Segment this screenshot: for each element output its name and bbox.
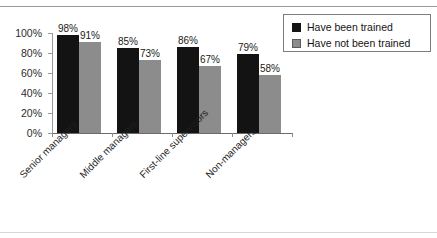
bar-not-trained[interactable]: 58% <box>259 75 281 133</box>
y-tick-label-2: 40% <box>21 88 42 99</box>
y-tick-3: 60% <box>48 73 52 74</box>
legend-label: Have been trained <box>307 22 393 33</box>
bar-value-label: 58% <box>255 64 285 74</box>
x-tick-3 <box>232 133 233 137</box>
x-tick-4 <box>292 133 293 137</box>
y-tick-5: 100% <box>48 33 52 34</box>
bar-not-trained[interactable]: 91% <box>79 42 101 133</box>
y-tick-label-5: 100% <box>15 28 42 39</box>
bar-value-label: 85% <box>113 37 143 47</box>
y-tick-label-3: 60% <box>21 68 42 79</box>
y-tick-label-0: 0% <box>27 128 42 139</box>
legend-item-trained[interactable]: Have been trained <box>292 20 430 34</box>
legend-swatch-icon <box>292 23 301 32</box>
bar-value-label: 79% <box>233 43 263 53</box>
y-tick-1: 20% <box>48 113 52 114</box>
y-tick-4: 80% <box>48 53 52 54</box>
bar-value-label: 67% <box>195 55 225 65</box>
y-tick-2: 40% <box>48 93 52 94</box>
chart-figure: 0% 20% 40% 60% 80% 100% 98% 91% <box>0 0 437 238</box>
bar-not-trained[interactable]: 73% <box>139 60 161 133</box>
x-category-label: Non-managers <box>204 126 258 180</box>
y-axis-line <box>52 33 53 133</box>
figure-top-rule <box>0 6 437 7</box>
y-tick-label-1: 20% <box>21 108 42 119</box>
plot-area: 0% 20% 40% 60% 80% 100% 98% 91% <box>52 33 292 133</box>
bar-trained[interactable]: 98% <box>57 35 79 133</box>
legend-label: Have not been trained <box>307 38 410 49</box>
chart-legend: Have been trained Have not been trained <box>283 14 431 52</box>
bar-value-label: 73% <box>135 49 165 59</box>
bar-value-label: 86% <box>173 36 203 46</box>
bar-not-trained[interactable]: 67% <box>199 66 221 133</box>
legend-swatch-icon <box>292 39 301 48</box>
y-tick-label-4: 80% <box>21 48 42 59</box>
figure-bottom-rule <box>0 232 437 233</box>
legend-item-not-trained[interactable]: Have not been trained <box>292 36 430 50</box>
bar-value-label: 91% <box>75 31 105 41</box>
